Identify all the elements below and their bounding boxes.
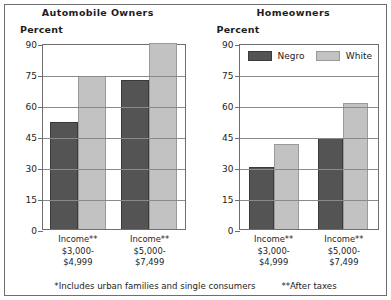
y-tick-label: 60 — [222, 102, 233, 112]
y-tick-mark — [38, 169, 43, 170]
x-group-label-line: Income** — [239, 234, 309, 246]
y-tick-label: 0 — [228, 226, 234, 236]
panel-automobile-owners: Automobile Owners Percent 0153045607590 … — [0, 0, 196, 300]
x-group-label: Income**$5,000-$7,499 — [309, 234, 379, 269]
panel-title-left: Automobile Owners — [0, 7, 196, 18]
x-group-label-line: $3,000- — [42, 246, 114, 258]
y-axis-title-right: Percent — [217, 24, 260, 35]
gridline — [43, 169, 185, 170]
y-tick-mark — [235, 231, 240, 232]
y-tick-label: 90 — [26, 40, 37, 50]
gridline — [240, 138, 379, 139]
legend: Negro White — [248, 51, 373, 61]
gridline — [240, 169, 379, 170]
legend-entry-negro: Negro — [248, 51, 305, 61]
x-group-label-line: Income** — [309, 234, 379, 246]
x-group-label-line: $4,999 — [239, 257, 309, 269]
panel-homeowners: Homeowners Percent Negro White 015304560… — [196, 0, 391, 300]
x-group-label-line: Income** — [114, 234, 186, 246]
y-tick-label: 75 — [26, 71, 37, 81]
y-tick-mark — [235, 200, 240, 201]
bar-negro — [249, 167, 274, 229]
y-tick-label: 75 — [222, 71, 233, 81]
gridline — [240, 200, 379, 201]
y-tick-label: 45 — [26, 133, 37, 143]
y-tick-mark — [235, 76, 240, 77]
y-tick-mark — [38, 200, 43, 201]
gridline — [240, 76, 379, 77]
x-group-label-line: Income** — [42, 234, 114, 246]
legend-swatch-white — [316, 51, 340, 61]
y-tick-label: 30 — [222, 164, 233, 174]
legend-swatch-negro — [248, 51, 272, 61]
x-group-label-line: $7,499 — [309, 257, 379, 269]
x-group-label-line: $5,000- — [114, 246, 186, 258]
gridline — [43, 76, 185, 77]
y-tick-label: 45 — [222, 133, 233, 143]
x-group-label: Income**$3,000-$4,999 — [239, 234, 309, 269]
bar-white — [78, 76, 106, 229]
x-axis-labels-right: Income**$3,000-$4,999Income**$5,000-$7,4… — [239, 234, 380, 269]
footnote-includes: *Includes urban families and single cons… — [54, 281, 255, 291]
legend-entry-white: White — [316, 51, 372, 61]
y-tick-mark — [38, 138, 43, 139]
y-tick-label: 30 — [26, 164, 37, 174]
y-tick-mark — [38, 107, 43, 108]
y-tick-label: 90 — [222, 40, 233, 50]
bar-white — [343, 103, 368, 229]
y-tick-mark — [38, 231, 43, 232]
gridline — [43, 200, 185, 201]
y-tick-mark — [235, 107, 240, 108]
bar-negro — [318, 138, 343, 229]
bar-white — [149, 43, 177, 229]
x-group-label-line: $4,999 — [42, 257, 114, 269]
x-group-label-line: $3,000- — [239, 246, 309, 258]
footnotes: *Includes urban families and single cons… — [0, 281, 391, 291]
y-tick-label: 60 — [26, 102, 37, 112]
y-tick-label: 0 — [31, 226, 37, 236]
x-group-label-line: $5,000- — [309, 246, 379, 258]
gridline — [43, 138, 185, 139]
y-tick-mark — [38, 76, 43, 77]
y-tick-label: 15 — [26, 195, 37, 205]
plot-area-right: Negro White 0153045607590 — [239, 44, 380, 230]
gridline — [240, 107, 379, 108]
y-tick-mark — [38, 45, 43, 46]
x-axis-labels-left: Income**$3,000-$4,999Income**$5,000-$7,4… — [42, 234, 186, 269]
gridline — [43, 107, 185, 108]
chart-figure: Automobile Owners Percent 0153045607590 … — [0, 0, 391, 300]
legend-label-white: White — [346, 51, 372, 61]
y-tick-label: 15 — [222, 195, 233, 205]
bar-negro — [121, 80, 149, 229]
x-group-label: Income**$3,000-$4,999 — [42, 234, 114, 269]
y-tick-mark — [235, 45, 240, 46]
legend-label-negro: Negro — [278, 51, 305, 61]
footnote-after-taxes: **After taxes — [281, 281, 336, 291]
plot-area-left: 0153045607590 — [42, 44, 186, 230]
y-axis-title-left: Percent — [20, 24, 63, 35]
x-group-label-line: $7,499 — [114, 257, 186, 269]
x-group-label: Income**$5,000-$7,499 — [114, 234, 186, 269]
bar-white — [274, 144, 299, 229]
y-tick-mark — [235, 169, 240, 170]
y-tick-mark — [235, 138, 240, 139]
panel-title-right: Homeowners — [196, 7, 391, 18]
